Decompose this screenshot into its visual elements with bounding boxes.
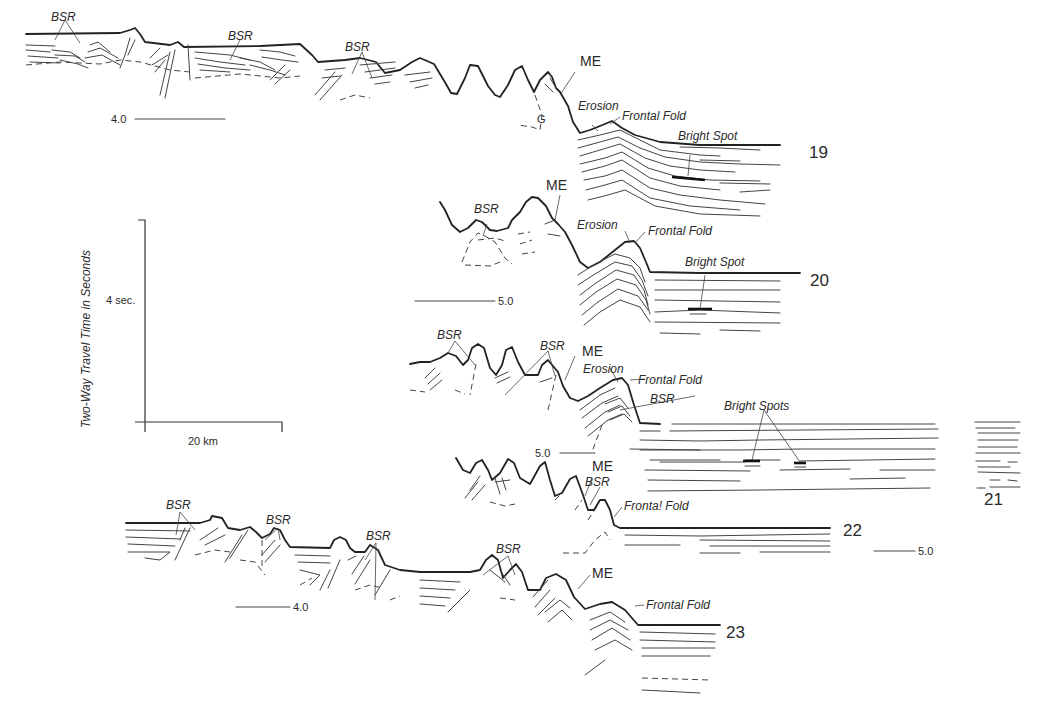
horizontal-scale-label: 20 km [188, 436, 218, 447]
profile-number-20: 20 [810, 272, 829, 289]
time-marker: 5.0 [535, 448, 550, 459]
time-marker: 5.0 [498, 296, 513, 307]
me-label: ME [592, 566, 613, 580]
profile-number-19: 19 [809, 144, 828, 161]
frontal-fold-label: Frontal Fold [622, 110, 686, 122]
me-label: ME [582, 344, 603, 358]
erosion-label: Erosion [578, 100, 619, 112]
bsr-label: BSR [437, 329, 462, 341]
time-marker: 4.0 [293, 602, 308, 613]
bsr-label: BSR [540, 340, 565, 352]
bsr-label: BSR [166, 499, 191, 511]
axis-title: Two-Way Travel Time in Seconds [80, 250, 92, 428]
me-label: ME [546, 178, 567, 192]
erosion-label: Erosion [577, 219, 618, 231]
frontal-fold-label: Fronta! Fold [624, 500, 689, 512]
frontal-fold-label: Frontal Fold [648, 225, 712, 237]
frontal-fold-label: Frontal Fold [638, 374, 702, 386]
bright-spot-label: Bright Spot [685, 256, 744, 268]
profile-23 [126, 512, 720, 693]
me-label: ME [580, 54, 601, 68]
bright-spot-label: Bright Spot [678, 130, 737, 142]
profile-number-21: 21 [984, 491, 1003, 508]
profile-number-23: 23 [726, 624, 745, 641]
frontal-fold-label: Frontal Fold [646, 599, 710, 611]
bsr-label: BSR [650, 393, 675, 405]
bsr-label: BSR [228, 30, 253, 42]
bsr-label: BSR [51, 11, 76, 23]
bsr-label: BSR [366, 530, 391, 542]
profile-number-22: 22 [843, 522, 862, 539]
bsr-label: BSR [585, 476, 610, 488]
time-marker: 4.0 [111, 114, 126, 125]
bsr-label: BSR [266, 514, 291, 526]
g-label: G [537, 114, 546, 125]
time-marker: 5.0 [918, 546, 933, 557]
bsr-label: BSR [496, 543, 521, 555]
profile-21 [410, 341, 1020, 491]
bsr-label: BSR [474, 203, 499, 215]
erosion-label: Erosion [583, 363, 624, 375]
me-label: ME [592, 459, 613, 473]
vertical-scale-label: 4 sec. [106, 295, 135, 306]
scale-bar [135, 220, 282, 432]
seismic-figure [0, 0, 1045, 715]
bsr-label: BSR [345, 41, 370, 53]
bright-spots-label: Bright Spots [724, 400, 789, 412]
